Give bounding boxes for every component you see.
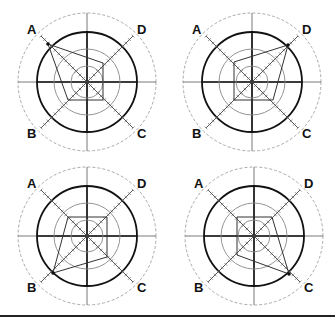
- radar-panel-bottom-left: ADBC: [18, 167, 156, 305]
- bottom-rule: [0, 315, 335, 317]
- axis-label-c: C: [304, 280, 314, 295]
- axis-label-b: B: [27, 280, 36, 295]
- axis-label-a: A: [27, 22, 37, 37]
- axis-label-d: D: [302, 22, 311, 37]
- axis-label-c: C: [302, 126, 312, 141]
- radar-diagram-grid: ADBCADBCADBCADBC: [0, 0, 335, 321]
- axis-label-b: B: [27, 126, 36, 141]
- axis-label-c: C: [137, 280, 147, 295]
- radar-panel-top-right: ADBC: [183, 13, 321, 151]
- axis-label-b: B: [192, 126, 201, 141]
- radar-panel-bottom-right: ADBC: [185, 167, 323, 305]
- axis-label-a: A: [27, 176, 37, 191]
- radar-panel-top-left: ADBC: [18, 13, 156, 151]
- axis-label-a: A: [194, 176, 204, 191]
- axis-label-c: C: [137, 126, 147, 141]
- axis-label-a: A: [192, 22, 202, 37]
- dominant-point: [286, 43, 290, 47]
- dominant-point: [287, 272, 291, 276]
- axis-label-d: D: [137, 176, 146, 191]
- dominant-point: [51, 271, 55, 275]
- dominant-point: [46, 42, 50, 46]
- axis-label-d: D: [137, 22, 146, 37]
- axis-label-d: D: [304, 176, 313, 191]
- axis-label-b: B: [194, 280, 203, 295]
